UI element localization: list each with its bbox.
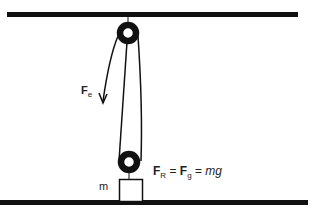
pulley-diagram bbox=[0, 0, 322, 221]
effort-symbol: F bbox=[81, 84, 88, 96]
effort-rope bbox=[103, 36, 118, 101]
bottom-pulley bbox=[121, 154, 137, 170]
top-pulley bbox=[120, 25, 136, 41]
right-rope bbox=[138, 36, 141, 161]
effort-subscript: e bbox=[88, 90, 92, 99]
mass-block bbox=[120, 180, 143, 202]
middle-rope bbox=[119, 42, 127, 161]
mass-label: m bbox=[99, 180, 108, 192]
equals-sign: = bbox=[166, 164, 180, 178]
resistance-equation: FR = Fg = mg bbox=[153, 164, 222, 180]
equals-sign: = bbox=[192, 164, 206, 178]
effort-force-label: Fe bbox=[81, 84, 92, 99]
mg-term: mg bbox=[205, 164, 222, 178]
